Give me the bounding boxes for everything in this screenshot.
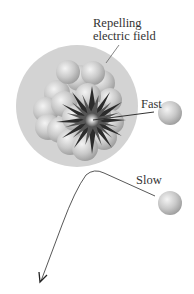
slow-path [41,171,155,281]
slow-particle [158,191,182,215]
slow-label: Slow [136,174,162,187]
nuclear-diagram [0,0,194,294]
fast-label: Fast [141,98,162,111]
arrowhead-icon [39,272,47,282]
field-label-line2: electric field [93,30,156,43]
